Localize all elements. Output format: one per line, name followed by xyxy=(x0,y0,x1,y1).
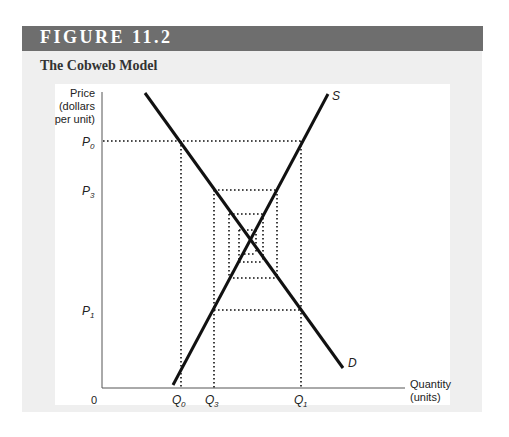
supply-curve xyxy=(173,94,328,385)
y-axis-label-line2: (dollars xyxy=(59,100,96,112)
svg-text:3: 3 xyxy=(90,191,95,200)
svg-text:3: 3 xyxy=(214,400,219,409)
svg-text:Q: Q xyxy=(172,393,181,407)
svg-text:1: 1 xyxy=(303,400,307,409)
price-tick-p0: P 0 xyxy=(82,135,95,151)
svg-text:P: P xyxy=(82,304,90,318)
svg-text:P: P xyxy=(82,135,90,149)
svg-text:0: 0 xyxy=(90,142,95,151)
y-axis-label-line1: Price xyxy=(70,87,95,99)
cobweb-chart: S D Price (dollars per unit) P 0 P 3 P 1… xyxy=(0,0,509,437)
demand-label: D xyxy=(348,356,357,370)
quantity-tick-q1: Q 1 xyxy=(294,393,307,409)
svg-text:P: P xyxy=(82,184,90,198)
svg-text:Q: Q xyxy=(294,393,303,407)
x-axis-label-line2: (units) xyxy=(410,391,441,403)
x-axis-label-line1: Quantity xyxy=(410,378,451,390)
svg-text:0: 0 xyxy=(181,400,186,409)
origin-label: 0 xyxy=(91,394,97,406)
svg-text:Q: Q xyxy=(205,393,214,407)
quantity-tick-q0: Q 0 xyxy=(172,393,186,409)
supply-label: S xyxy=(332,89,340,103)
demand-curve xyxy=(145,93,343,368)
y-axis-label-line3: per unit) xyxy=(55,113,95,125)
reference-lines xyxy=(103,141,301,388)
price-tick-p3: P 3 xyxy=(82,184,95,200)
svg-text:1: 1 xyxy=(90,311,94,320)
price-tick-p1: P 1 xyxy=(82,304,94,320)
quantity-tick-q3: Q 3 xyxy=(205,393,219,409)
